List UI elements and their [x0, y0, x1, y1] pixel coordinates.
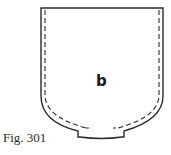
seam-line-dashed — [45, 10, 159, 128]
piece-label: b — [96, 74, 107, 89]
figure-caption: Fig. 301 — [3, 131, 46, 145]
